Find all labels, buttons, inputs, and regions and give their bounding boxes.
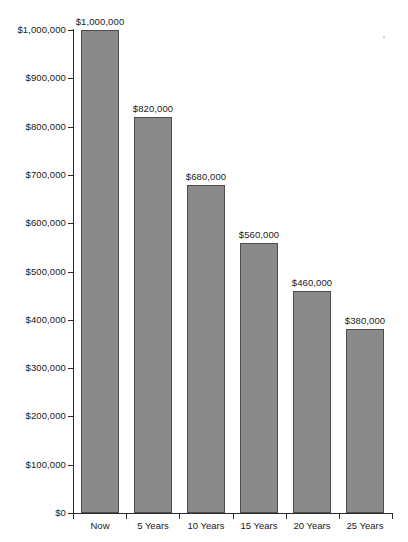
y-axis-tick-label: $900,000 [26, 73, 66, 83]
y-axis-tick-label: $1,000,000 [17, 25, 66, 35]
bar-value-label: $680,000 [166, 172, 246, 182]
y-axis-tick [68, 416, 74, 417]
y-axis-tick-label: $600,000 [26, 218, 66, 228]
y-axis-tick [68, 223, 74, 224]
bar [81, 30, 119, 513]
y-axis-tick-label: $400,000 [26, 315, 66, 325]
y-axis-tick [68, 272, 74, 273]
y-axis-tick-label: $200,000 [26, 411, 66, 421]
bar-value-label: $820,000 [113, 104, 193, 114]
x-axis-tick [73, 513, 74, 519]
y-axis-tick [68, 127, 74, 128]
y-axis-tick-label: $800,000 [26, 122, 66, 132]
scan-speck [383, 36, 385, 39]
y-axis-tick [68, 30, 74, 31]
y-axis-tick-label: $300,000 [26, 363, 66, 373]
y-axis-tick-label: $500,000 [26, 267, 66, 277]
bar-chart: $0$100,000$200,000$300,000$400,000$500,0… [0, 0, 408, 542]
y-axis-tick-label: $0 [55, 508, 66, 518]
y-axis-tick [68, 175, 74, 176]
bar-value-label: $460,000 [272, 278, 352, 288]
y-axis-tick-label: $100,000 [26, 460, 66, 470]
x-axis-tick [339, 513, 340, 519]
x-axis-tick [392, 513, 393, 519]
x-axis-tick-label: 25 Years [325, 521, 405, 531]
x-axis-tick [126, 513, 127, 519]
y-axis-tick [68, 320, 74, 321]
bar-value-label: $560,000 [219, 230, 299, 240]
x-axis-tick [233, 513, 234, 519]
x-axis-tick [286, 513, 287, 519]
y-axis-tick [68, 368, 74, 369]
x-axis-tick [179, 513, 180, 519]
y-axis-tick [68, 78, 74, 79]
bar [346, 329, 384, 513]
y-axis-tick [68, 465, 74, 466]
bar-value-label: $380,000 [325, 316, 405, 326]
y-axis-tick-label: $700,000 [26, 170, 66, 180]
bar-value-label: $1,000,000 [60, 17, 140, 27]
